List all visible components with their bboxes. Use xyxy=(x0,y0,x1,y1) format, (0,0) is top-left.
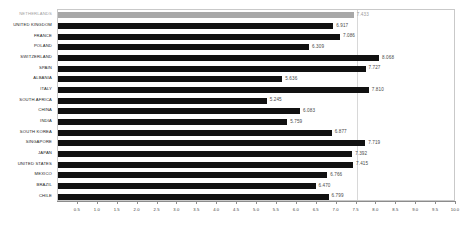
x-axis-tick xyxy=(276,201,277,204)
bar xyxy=(58,66,366,72)
bar xyxy=(58,140,365,146)
bar-row: 5.245 xyxy=(58,96,282,106)
x-axis-tick xyxy=(395,201,396,204)
bar-value-label: 6.470 xyxy=(319,184,331,189)
category-label: SOUTH KOREA xyxy=(20,127,52,137)
x-axis-tick xyxy=(236,201,237,204)
x-axis-tick-label: 10.0 xyxy=(451,207,460,212)
bar xyxy=(58,55,379,61)
x-axis-tick xyxy=(336,201,337,204)
bar-row: 7.727 xyxy=(58,64,381,74)
x-axis-tick xyxy=(455,201,456,204)
bar-value-label: 6.309 xyxy=(312,45,324,50)
x-axis-tick-label: 6.0 xyxy=(293,207,299,212)
bar-value-label: 7.727 xyxy=(369,66,381,71)
category-label: ITALY xyxy=(40,84,52,94)
bar-row: 7.719 xyxy=(58,138,380,148)
bar xyxy=(58,23,333,29)
x-axis-tick xyxy=(216,201,217,204)
bar xyxy=(58,44,309,50)
category-label: BRAZIL xyxy=(36,180,52,190)
bar-row: 5.759 xyxy=(58,117,302,127)
bar-row: 5.636 xyxy=(58,74,297,84)
bar-row: 6.309 xyxy=(58,42,324,52)
x-axis-tick xyxy=(97,201,98,204)
bar-value-label: 8.068 xyxy=(382,56,394,61)
x-axis-tick xyxy=(356,201,357,204)
bar-value-label: 6.083 xyxy=(303,109,315,114)
bar xyxy=(58,172,327,178)
category-label: SWITZERLAND xyxy=(20,52,52,62)
bar-value-label: 7.086 xyxy=(343,34,355,39)
category-label: CHILE xyxy=(39,191,52,201)
x-axis-tick xyxy=(296,201,297,204)
x-axis-tick-label: 9.5 xyxy=(432,207,438,212)
bar xyxy=(58,98,267,104)
x-axis-tick xyxy=(316,201,317,204)
bar-value-label: 7.719 xyxy=(368,141,380,146)
x-axis-tick-label: 4.5 xyxy=(233,207,239,212)
x-axis-tick-label: 5.5 xyxy=(273,207,279,212)
bar xyxy=(58,119,287,125)
x-axis-tick xyxy=(117,201,118,204)
category-label: UNITED STATES xyxy=(18,159,52,169)
x-axis-tick xyxy=(77,201,78,204)
bar-row: 6.766 xyxy=(58,170,342,180)
bar-row: 7.415 xyxy=(58,160,368,170)
bar-row: 8.068 xyxy=(58,53,394,63)
bar xyxy=(58,130,332,136)
bars-layer: 7.4336.9177.0866.3098.0687.7275.6367.810… xyxy=(58,10,454,200)
category-axis-labels: NETHERLANDSUNITED KINGDOMFRANCEPOLANDSWI… xyxy=(0,9,55,201)
bar xyxy=(58,194,329,200)
bar-value-label: 7.433 xyxy=(357,13,369,18)
x-axis-tick-label: 3.0 xyxy=(173,207,179,212)
x-axis: 0.51.01.52.02.53.03.54.04.55.05.56.06.57… xyxy=(57,201,455,223)
category-label: FRANCE xyxy=(34,31,52,41)
bar-chart: NETHERLANDSUNITED KINGDOMFRANCEPOLANDSWI… xyxy=(0,0,469,229)
x-axis-tick xyxy=(435,201,436,204)
bar-value-label: 5.636 xyxy=(285,77,297,82)
bar-row: 7.392 xyxy=(58,149,367,159)
bar xyxy=(58,87,369,93)
x-axis-tick-label: 1.5 xyxy=(114,207,120,212)
x-axis-tick xyxy=(415,201,416,204)
x-axis-tick-label: 6.5 xyxy=(313,207,319,212)
category-label: JAPAN xyxy=(38,148,52,158)
x-axis-tick-label: 4.0 xyxy=(213,207,219,212)
bar-value-label: 6.877 xyxy=(335,130,347,135)
bar xyxy=(58,151,352,157)
x-axis-tick-label: 1.0 xyxy=(94,207,100,212)
bar-value-label: 5.759 xyxy=(290,120,302,125)
category-label: SPAIN xyxy=(39,63,52,73)
category-label: POLAND xyxy=(34,41,52,51)
x-axis-tick-label: 8.5 xyxy=(392,207,398,212)
bar-row: 6.917 xyxy=(58,21,348,31)
x-axis-tick-label: 8.0 xyxy=(372,207,378,212)
x-axis-tick-label: 2.0 xyxy=(134,207,140,212)
x-axis-tick-label: 2.5 xyxy=(153,207,159,212)
bar-value-label: 6.766 xyxy=(330,173,342,178)
x-axis-tick xyxy=(196,201,197,204)
bar-row: 6.877 xyxy=(58,128,347,138)
category-label: UNITED KINGDOM xyxy=(13,20,52,30)
x-axis-tick xyxy=(176,201,177,204)
bar-value-label: 6.917 xyxy=(336,24,348,29)
category-label: SINGAPORE xyxy=(26,137,52,147)
x-axis-tick xyxy=(256,201,257,204)
bar xyxy=(58,12,354,18)
plot-area: 7.4336.9177.0866.3098.0687.7275.6367.810… xyxy=(57,9,455,201)
category-label: MEXICO xyxy=(35,169,52,179)
bar-value-label: 5.245 xyxy=(270,98,282,103)
bar xyxy=(58,183,316,189)
bar xyxy=(58,76,282,82)
category-label: ALBANIA xyxy=(33,73,52,83)
bar-row: 6.083 xyxy=(58,106,315,116)
x-axis-tick xyxy=(137,201,138,204)
bar-row: 6.470 xyxy=(58,181,331,191)
bar-row: 7.433 xyxy=(58,10,369,20)
bar-value-label: 7.810 xyxy=(372,88,384,93)
category-label: CHINA xyxy=(38,105,52,115)
x-axis-tick-label: 9.0 xyxy=(412,207,418,212)
x-axis-tick-label: 3.5 xyxy=(193,207,199,212)
bar xyxy=(58,162,353,168)
